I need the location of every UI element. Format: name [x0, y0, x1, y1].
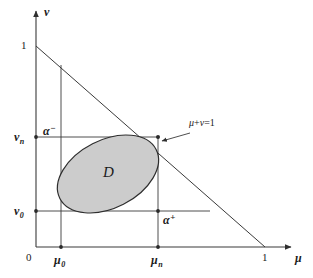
y-tick-nu-0-label: ν0	[14, 205, 23, 217]
mu-n-base: μ	[151, 253, 158, 267]
nu-n-subscript: n	[20, 137, 24, 146]
alpha-plus-superscript: +	[170, 212, 175, 222]
figure-container: ν μ 1 1 0 νn ν0 μ0 μn α− α+ μ+ν=1 D	[0, 0, 313, 278]
nu-0-subscript: 0	[20, 211, 24, 220]
tick-dot-nu-0	[34, 209, 38, 213]
x-tick-mu-0-label: μ0	[54, 254, 65, 266]
constraint-one: 1	[210, 117, 215, 128]
mu-0-base: μ	[54, 253, 61, 267]
alpha-plus-base: α	[163, 213, 170, 227]
constraint-line-label: μ+ν=1	[189, 118, 215, 128]
y-tick-nu-n-label: νn	[14, 131, 24, 143]
mu-0-subscript: 0	[61, 260, 65, 269]
intersection-point	[156, 135, 160, 139]
origin-label: 0	[26, 252, 32, 263]
alpha-minus-base: α	[43, 124, 50, 138]
x-axis-label: μ	[295, 252, 302, 264]
y-tick-one-label: 1	[21, 40, 27, 51]
tick-dot-nu-n	[34, 135, 38, 139]
alpha-minus-superscript: −	[50, 123, 55, 133]
alpha-minus-label: α−	[43, 125, 55, 137]
diagram-canvas	[0, 0, 313, 278]
x-tick-mu-n-label: μn	[151, 254, 162, 266]
mu-n-subscript: n	[158, 260, 162, 269]
constraint-label-leader	[162, 133, 190, 141]
tick-dot-mu-n	[156, 245, 160, 249]
alpha-plus-label: α+	[163, 214, 175, 226]
region-label-d: D	[103, 165, 114, 180]
y-axis-label: ν	[44, 6, 49, 18]
tick-dot-mu-0	[59, 245, 63, 249]
nu-n-base: ν	[14, 130, 19, 144]
nu-0-base: ν	[14, 204, 19, 218]
x-tick-one-label: 1	[262, 252, 268, 263]
corner-point-alpha-plus	[156, 209, 160, 213]
